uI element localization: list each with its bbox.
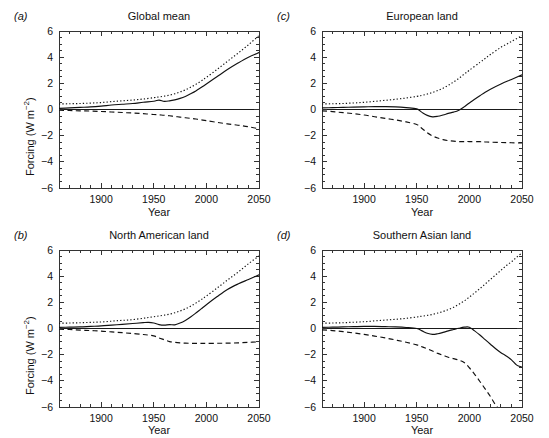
plot-area-b: −6−4−202461900195020002050 (25, 246, 293, 437)
y-tick-label: 2 (310, 296, 316, 308)
plot-area-d: −6−4−202461900195020002050 (288, 246, 549, 437)
series-aerosols (322, 111, 522, 143)
panel-title: Southern Asian land (312, 229, 532, 241)
y-tick-label: 6 (47, 244, 53, 256)
panel-title: North American land (49, 229, 269, 241)
x-tick-label: 1900 (89, 412, 113, 424)
panel-title: Global mean (49, 10, 269, 22)
y-tick-label: 6 (310, 25, 316, 37)
y-tick-label: 6 (47, 25, 53, 37)
x-tick-label: 2000 (195, 193, 219, 205)
y-tick-label: −6 (41, 401, 53, 413)
x-tick-label: 2050 (247, 412, 271, 424)
panel-label-a: (a) (14, 10, 27, 22)
figure-forcing-panels: (a)Global meanYearForcing (W m−2)−6−4−20… (0, 0, 549, 438)
plot-area-c: −6−4−202461900195020002050 (288, 27, 549, 218)
y-tick-label: −6 (41, 182, 53, 194)
x-tick-label: 2050 (247, 193, 271, 205)
x-tick-label: 2050 (510, 193, 534, 205)
x-tick-label: 1950 (405, 193, 429, 205)
y-tick-label: 0 (47, 103, 53, 115)
y-tick-label: 2 (310, 77, 316, 89)
y-tick-label: −4 (41, 155, 53, 167)
y-tick-label: −4 (41, 374, 53, 386)
x-tick-label: 1950 (142, 193, 166, 205)
x-tick-label: 2000 (458, 412, 482, 424)
x-tick-label: 2050 (510, 412, 534, 424)
series-total (59, 275, 259, 328)
y-tick-label: 2 (47, 296, 53, 308)
y-tick-label: 0 (310, 103, 316, 115)
x-tick-label: 2000 (458, 193, 482, 205)
series-aerosols (59, 110, 259, 129)
y-tick-label: 4 (310, 51, 316, 63)
x-tick-label: 1900 (89, 193, 113, 205)
series-total (322, 75, 522, 117)
series-total (59, 53, 259, 109)
y-tick-label: 4 (47, 51, 53, 63)
y-tick-label: −2 (304, 129, 316, 141)
panel-label-b: (b) (14, 229, 27, 241)
y-tick-label: 6 (310, 244, 316, 256)
y-tick-label: −4 (304, 155, 316, 167)
panel-label-d: (d) (277, 229, 290, 241)
y-tick-label: −2 (41, 129, 53, 141)
x-tick-label: 2000 (195, 412, 219, 424)
y-tick-label: 4 (47, 270, 53, 282)
y-tick-label: 0 (310, 322, 316, 334)
x-tick-label: 1900 (352, 412, 376, 424)
panel-label-c: (c) (277, 10, 290, 22)
series-greenhouse-gases (322, 253, 522, 323)
series-greenhouse-gases (59, 256, 259, 323)
y-tick-label: −2 (41, 348, 53, 360)
series-aerosols (59, 329, 259, 343)
x-tick-label: 1900 (352, 193, 376, 205)
x-tick-label: 1950 (405, 412, 429, 424)
series-greenhouse-gases (59, 36, 259, 104)
x-tick-label: 1950 (142, 412, 166, 424)
y-tick-label: −4 (304, 374, 316, 386)
y-tick-label: −2 (304, 348, 316, 360)
series-greenhouse-gases (322, 36, 522, 104)
y-tick-label: 4 (310, 270, 316, 282)
y-tick-label: 0 (47, 322, 53, 334)
y-tick-label: −6 (304, 182, 316, 194)
plot-area-a: −6−4−202461900195020002050 (25, 27, 293, 218)
y-tick-label: −6 (304, 401, 316, 413)
panel-title: European land (312, 10, 532, 22)
y-tick-label: 2 (47, 77, 53, 89)
